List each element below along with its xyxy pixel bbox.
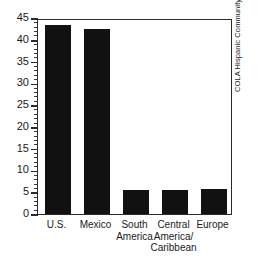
bar-chart-figure: 051015202530354045 U.S.MexicoSouthAmeric… — [0, 0, 260, 267]
bar — [162, 190, 188, 214]
y-axis-tick-label: 25 — [17, 99, 29, 110]
y-axis-tick-label: 5 — [23, 186, 29, 197]
x-axis-labels: U.S.MexicoSouthAmericaCentralAmerica/Car… — [37, 219, 232, 267]
bar — [45, 25, 71, 214]
y-axis-tick-label: 10 — [17, 164, 29, 175]
x-axis-label-line: Europe — [185, 219, 240, 231]
y-axis-tick-label: 0 — [23, 208, 29, 219]
y-axis-tick-label: 15 — [17, 143, 29, 154]
y-axis-tick-label: 45 — [17, 12, 29, 23]
x-axis-label: Europe — [185, 219, 240, 231]
x-axis-label-line: America/ — [146, 231, 201, 243]
y-axis-tick-label: 35 — [17, 56, 29, 67]
source-caption: COLA Hispanic Community Survey, 1978. — [233, 0, 242, 92]
bar — [201, 189, 227, 214]
y-axis: 051015202530354045 — [0, 19, 38, 216]
y-axis-tick-label: 30 — [17, 77, 29, 88]
plot-area — [37, 19, 232, 215]
bar — [123, 190, 149, 214]
y-axis-tick-label: 40 — [17, 34, 29, 45]
x-axis-label-line: Caribbean — [146, 242, 201, 254]
bar — [84, 29, 110, 214]
cut-off-header-text — [6, 0, 156, 8]
y-axis-tick-label: 20 — [17, 121, 29, 132]
